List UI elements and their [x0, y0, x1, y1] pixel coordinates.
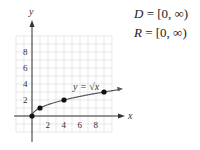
range-var: R — [134, 25, 142, 40]
x-tick-label: 8 — [94, 120, 99, 130]
x-tick-label: 6 — [78, 120, 83, 130]
y-tick-label: 6 — [23, 63, 28, 73]
sqrt-curve — [32, 89, 120, 116]
x-axis-label: x — [127, 110, 133, 121]
data-point — [101, 89, 106, 94]
y-tick-label: 4 — [23, 79, 28, 89]
x-tick-label: 4 — [62, 120, 67, 130]
curve-label: y = √x — [72, 81, 100, 92]
y-axis-label: y — [28, 6, 34, 17]
data-point — [61, 97, 66, 102]
sqrt-function-graph: xy 24682468 y = √x — [0, 0, 200, 150]
axes: xy — [14, 6, 133, 142]
y-axis-arrow-icon — [30, 20, 35, 27]
x-axis-arrow-icon — [118, 114, 125, 119]
data-point — [29, 113, 34, 118]
x-tick-label: 2 — [46, 120, 51, 130]
y-tick-label: 2 — [23, 95, 28, 105]
range-statement: R = [0, ∞) — [134, 25, 187, 41]
domain-value: = [0, ∞) — [147, 6, 189, 21]
curve-arrow-icon — [117, 87, 123, 92]
data-point — [37, 105, 42, 110]
range-value: = [0, ∞) — [145, 25, 187, 40]
domain-var: D — [134, 6, 143, 21]
domain-statement: D = [0, ∞) — [134, 6, 188, 22]
y-tick-label: 8 — [23, 47, 28, 57]
